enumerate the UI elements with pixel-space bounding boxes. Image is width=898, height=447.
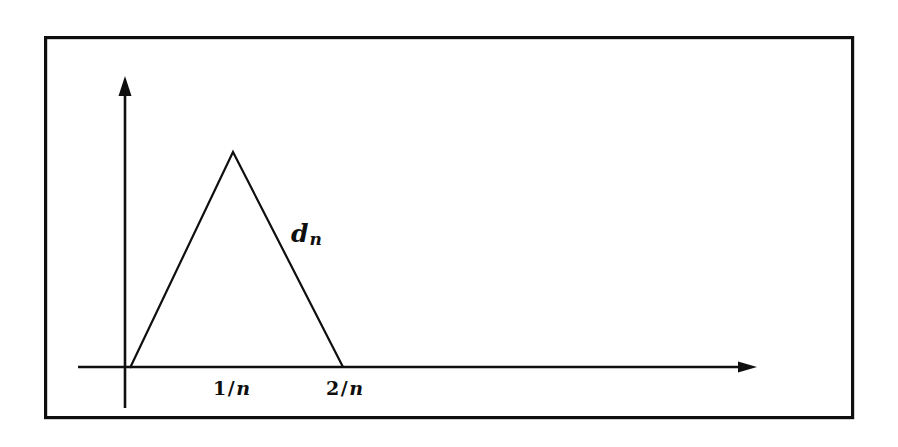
tick-1-slash: / <box>227 377 236 399</box>
tick-label-1-over-n: 1/n <box>213 377 251 399</box>
curve-label-subscript: n <box>308 229 321 249</box>
figure-canvas <box>0 0 898 447</box>
y-axis-arrowhead <box>119 76 132 96</box>
dn-curve <box>130 152 343 368</box>
tick-2-numerator: 2 <box>326 377 340 399</box>
curve-label-dn: dn <box>291 219 322 249</box>
tick-2-slash: / <box>340 377 349 399</box>
figure-border <box>46 38 853 418</box>
curve-label-base: d <box>291 219 308 248</box>
figure-page: 1/n 2/n dn <box>0 0 898 447</box>
tick-label-2-over-n: 2/n <box>326 377 364 399</box>
tick-1-variable: n <box>236 377 250 399</box>
tick-1-numerator: 1 <box>213 377 227 399</box>
x-axis-arrowhead <box>738 362 757 373</box>
tick-2-variable: n <box>349 377 363 399</box>
